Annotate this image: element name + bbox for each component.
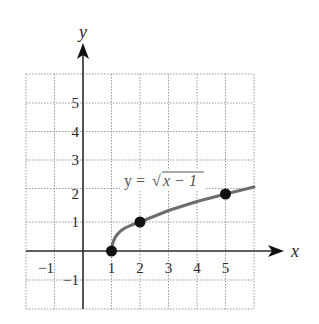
x-tick-4: 4 <box>193 260 201 276</box>
point-1-0 <box>106 246 117 257</box>
x-axis-label: x <box>290 241 299 261</box>
y-tick-3: 3 <box>72 152 80 168</box>
y-tick-m1: −1 <box>63 272 79 288</box>
x-tick-2: 2 <box>136 260 144 276</box>
eq-lhs: y = <box>124 172 145 190</box>
y-tick-1: 1 <box>72 214 80 230</box>
eq-radicand: x − 1 <box>162 172 197 189</box>
x-tick-3: 3 <box>165 260 173 276</box>
function-curve <box>112 187 255 251</box>
point-2-1 <box>135 217 146 228</box>
x-tick-m1: −1 <box>38 260 54 276</box>
y-tick-4: 4 <box>72 124 80 140</box>
point-5-2 <box>220 189 231 200</box>
y-axis-label: y <box>77 22 87 42</box>
graph: x y −1 1 2 3 4 5 5 4 3 2 1 −1 y = √ x − … <box>0 0 319 324</box>
eq-radical-icon: √ <box>152 172 161 189</box>
y-tick-labels: 5 4 3 2 1 −1 <box>63 95 79 288</box>
function-label: y = √ x − 1 <box>120 170 206 190</box>
x-tick-5: 5 <box>222 260 230 276</box>
x-tick-1: 1 <box>108 260 116 276</box>
y-tick-5: 5 <box>72 95 80 111</box>
y-tick-2: 2 <box>72 186 80 202</box>
